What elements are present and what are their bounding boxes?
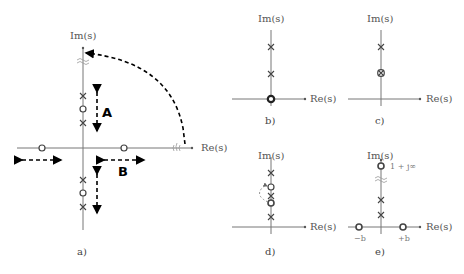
panel-a-re-label: Re(s) [201,142,227,153]
panel-a: Im(s) Re(s) A B a) [17,30,227,257]
infinity-annotation: 1 + j∞ [390,162,416,171]
panel-a-caption: a) [77,246,87,257]
panel-d-re-label: Re(s) [310,221,336,232]
panel-b-caption: b) [265,115,275,126]
panel-c-caption: c) [375,115,385,126]
zero-icon [268,200,274,206]
region-label-b: B [118,164,128,179]
double-zero-icon [268,96,274,102]
zero-icon [268,184,274,190]
panel-b-re-label: Re(s) [310,93,336,104]
zero-icon [80,190,86,196]
panel-a-im-label: Im(s) [70,30,96,41]
panel-c-im-label: Im(s) [367,13,393,24]
panel-d: Im(s) Re(s) d) [232,150,336,257]
panel-e-caption: e) [375,246,385,257]
axis-break-icon [173,143,180,151]
zero-icon [39,145,45,151]
pos-b-label: +b [398,234,410,243]
panel-b-im-label: Im(s) [258,13,284,24]
panel-e: Im(s) Re(s) 1 + j∞ −b +b e) [348,150,452,257]
panel-c: Im(s) Re(s) c) [348,13,452,126]
zero-icon [121,145,127,151]
panel-b: Im(s) Re(s) b) [232,13,336,126]
zero-icon [356,224,362,230]
panel-e-re-label: Re(s) [426,221,452,232]
zero-at-infinity-icon [378,163,384,169]
arc-arrow-icon [260,186,268,202]
zero-icon [80,106,86,112]
panel-c-re-label: Re(s) [426,93,452,104]
arc-arrow-icon [86,53,185,144]
panel-d-caption: d) [265,246,275,257]
neg-b-label: −b [354,234,366,243]
region-label-a: A [102,105,112,120]
zero-icon [400,224,406,230]
